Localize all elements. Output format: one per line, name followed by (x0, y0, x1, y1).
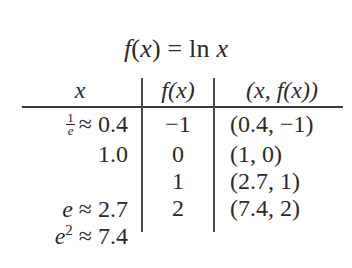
row-1-x: 1.0 (20, 140, 128, 168)
row-1-x-approx: 1.0 (98, 141, 128, 167)
row-3-x-approx: ≈ 7.4 (73, 223, 128, 249)
row-0-point: (0.4, −1) (230, 110, 350, 138)
title-close-paren: ) (152, 34, 161, 63)
row-2-point: (2.7, 1) (230, 167, 350, 195)
title-equals-ln: = ln (161, 34, 217, 63)
row-0-fx: −1 (146, 110, 210, 138)
header-x: x (60, 76, 100, 104)
table-title: f(x) = ln x (0, 34, 352, 64)
header-point: (x, f(x)) (220, 76, 344, 104)
row-1-fx: 0 (146, 140, 210, 168)
header-fx: f(x) (146, 76, 210, 104)
row-3-fx: 2 (146, 194, 210, 222)
fraction-one-over-e: 1 e (66, 112, 75, 137)
title-arg: x (216, 34, 228, 63)
row-3-x: e2 ≈ 7.4 (20, 194, 128, 268)
header-point-text: (x, f(x)) (246, 77, 318, 103)
row-2-fx: 1 (146, 167, 210, 195)
row-3-point: (7.4, 2) (230, 194, 350, 222)
column-divider-1 (141, 78, 143, 232)
fraction-denominator: e (66, 125, 75, 137)
title-var: x (140, 34, 152, 63)
row-0-x: 1 e ≈ 0.4 (20, 110, 128, 139)
row-0-x-approx: ≈ 0.4 (79, 111, 128, 137)
title-open-paren: ( (131, 34, 140, 63)
row-3-x-symbol: e (55, 223, 66, 249)
row-3-x-exponent: 2 (65, 222, 73, 238)
header-fx-text: f(x) (161, 77, 194, 103)
row-1-point: (1, 0) (230, 140, 350, 168)
header-divider (22, 106, 343, 108)
column-divider-2 (213, 78, 215, 232)
